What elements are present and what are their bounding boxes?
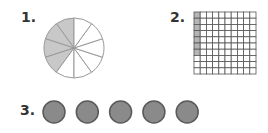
grid-cell [213,31,219,37]
grid-cell [219,55,225,61]
grid-cell [250,55,256,61]
grid-cell [225,18,231,24]
grid-cell [225,24,231,30]
coin-icon [110,101,132,123]
hundred-grid [193,11,257,75]
grid-cell [206,31,212,37]
grid-cell [250,49,256,55]
grid-cell [219,18,225,24]
grid-cell [225,68,231,74]
grid-cell [194,68,200,74]
shaded-cell [194,49,200,55]
problem-2-number: 2. [170,10,185,24]
coin-icon [76,101,98,123]
grid-cell [231,18,237,24]
grid-cell [206,12,212,18]
problem-1-number: 1. [21,10,36,24]
coin-icon [43,101,65,123]
grid-cell [231,37,237,43]
grid-cell [200,18,206,24]
coins-row [40,98,220,126]
shaded-cell [194,37,200,43]
grid-cell [213,62,219,68]
grid-cell [231,49,237,55]
grid-cell [206,18,212,24]
grid-cell [213,55,219,61]
grid-cell [231,12,237,18]
grid-cell [206,68,212,74]
grid-cell [213,24,219,30]
grid-cell [231,24,237,30]
grid-cell [250,12,256,18]
grid-cell [244,43,250,49]
grid-cell [244,49,250,55]
grid-cell [206,37,212,43]
grid-cell [250,31,256,37]
grid-cell [237,55,243,61]
fraction-circle [42,16,106,80]
grid-cell [200,37,206,43]
grid-cell [200,49,206,55]
grid-cell [194,62,200,68]
grid-cell [225,12,231,18]
shaded-cell [194,18,200,24]
grid-cell [237,31,243,37]
grid-cell [237,68,243,74]
grid-cell [237,49,243,55]
grid-cell [244,31,250,37]
grid-cell [237,12,243,18]
grid-cell [250,68,256,74]
grid-cell [206,24,212,30]
grid-cell [244,68,250,74]
grid-cell [225,55,231,61]
shaded-cell [194,24,200,30]
grid-cell [250,37,256,43]
grid-cell [219,49,225,55]
grid-cell [206,55,212,61]
grid-cell [250,43,256,49]
grid-cell [244,24,250,30]
grid-cell [213,37,219,43]
grid-cell [225,31,231,37]
grid-cell [244,37,250,43]
grid-cell [237,37,243,43]
grid-cell [231,43,237,49]
grid-cell [200,12,206,18]
grid-cell [231,62,237,68]
problem-3-number: 3. [20,103,35,117]
shaded-cell [194,12,200,18]
grid-cell [194,55,200,61]
grid-cell [213,18,219,24]
grid-cell [237,43,243,49]
grid-cell [213,68,219,74]
grid-cell [219,62,225,68]
grid-cell [231,55,237,61]
grid-cell [250,18,256,24]
grid-cell [225,43,231,49]
grid-cell [244,12,250,18]
grid-cell [244,55,250,61]
grid-cell [200,55,206,61]
grid-cell [219,68,225,74]
grid-cell [219,24,225,30]
grid-cell [200,43,206,49]
grid-cell [219,12,225,18]
grid-cell [213,43,219,49]
grid-cell [219,31,225,37]
grid-cell [200,62,206,68]
grid-cell [231,68,237,74]
grid-cell [250,24,256,30]
grid-cell [213,49,219,55]
grid-cell [219,43,225,49]
grid-cell [206,43,212,49]
grid-cell [237,18,243,24]
grid-cell [206,62,212,68]
grid-cell [200,68,206,74]
grid-cell [231,31,237,37]
shaded-cell [194,31,200,37]
grid-cell [206,49,212,55]
coin-icon [143,101,165,123]
grid-cell [219,37,225,43]
shaded-cell [194,43,200,49]
grid-cell [244,62,250,68]
